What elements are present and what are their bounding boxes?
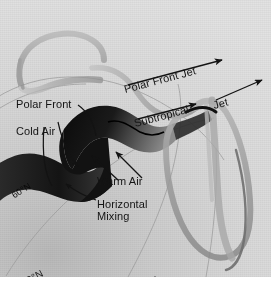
latitude-curve-30n	[6, 118, 214, 276]
label-horizontal-mixing-line1: Horizontal	[97, 199, 148, 211]
label-horizontal-mixing-line2: Mixing	[97, 211, 129, 223]
figure-canvas: Polar Front Cold Air Warm Air Horizontal…	[0, 0, 279, 287]
label-cold-air: Cold Air	[16, 126, 55, 138]
diagram-graphics	[0, 0, 271, 277]
diagram-plate: Polar Front Cold Air Warm Air Horizontal…	[0, 0, 271, 277]
label-polar-front: Polar Front	[16, 99, 72, 111]
label-warm-air: Warm Air	[97, 176, 143, 188]
